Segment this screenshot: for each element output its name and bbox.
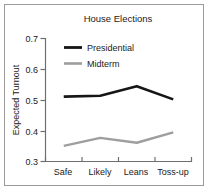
y-axis-ticks <box>41 39 46 162</box>
legend-label-midterm: Midterm <box>87 59 120 69</box>
legend-label-presidential: Presidential <box>87 43 134 53</box>
y-axis-title: Expected Turnout <box>11 64 21 135</box>
line-chart: House Elections 0.7 0.6 0.5 0.4 0.3 Expe… <box>0 0 209 191</box>
y-tick-label-0.3: 0.3 <box>25 157 38 167</box>
x-tick-label-likely: Likely <box>88 167 112 177</box>
y-tick-label-0.7: 0.7 <box>25 34 38 44</box>
chart-figure: House Elections 0.7 0.6 0.5 0.4 0.3 Expe… <box>0 0 209 191</box>
chart-title: House Elections <box>84 13 153 24</box>
chart-legend: Presidential Midterm <box>64 43 134 69</box>
y-tick-label-0.5: 0.5 <box>25 96 38 106</box>
x-tick-label-tossup: Toss-up <box>157 167 189 177</box>
x-axis-ticks <box>46 157 192 162</box>
y-tick-label-0.4: 0.4 <box>25 127 38 137</box>
y-tick-label-0.6: 0.6 <box>25 65 38 75</box>
series-line-midterm <box>64 132 174 146</box>
series-line-presidential <box>64 86 174 99</box>
x-tick-label-leans: Leans <box>124 167 149 177</box>
x-tick-label-safe: Safe <box>54 167 73 177</box>
